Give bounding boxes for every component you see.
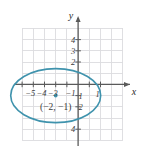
x-tick-label-1: 1 bbox=[95, 89, 99, 99]
x-tick-label--1: −1 bbox=[66, 88, 76, 98]
center-coordinate-label: (−2, −1) bbox=[40, 102, 71, 113]
x-axis-arrow bbox=[124, 82, 130, 87]
coordinate-plane-svg: −5 −4 −3 −1 1 4 3 2 1 2 4 x y (−2, −1) bbox=[0, 0, 144, 150]
x-tick-label--5: −5 bbox=[25, 88, 35, 98]
y-axis-arrow bbox=[76, 16, 81, 22]
y-axis-label: y bbox=[68, 10, 74, 21]
x-tick-label--3: −3 bbox=[48, 88, 58, 98]
y-tick-label--2: 2 bbox=[78, 102, 83, 112]
y-tick-label--1: 1 bbox=[78, 91, 82, 101]
figure-canvas: −5 −4 −3 −1 1 4 3 2 1 2 4 x y (−2, −1) bbox=[0, 0, 144, 150]
x-tick-label--4: −4 bbox=[37, 88, 48, 98]
x-axis-label: x bbox=[131, 86, 137, 97]
y-tick-label-3: 3 bbox=[70, 46, 75, 56]
